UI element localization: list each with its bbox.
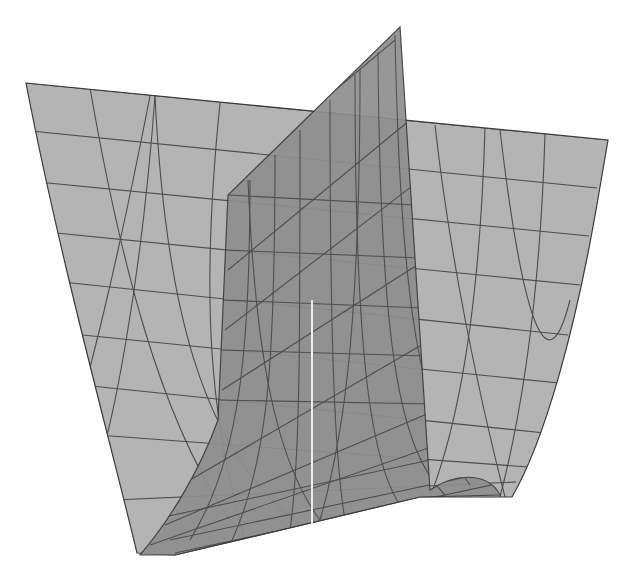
surface-plot-canvas [0,0,633,586]
surface-plot-figure [0,0,633,586]
